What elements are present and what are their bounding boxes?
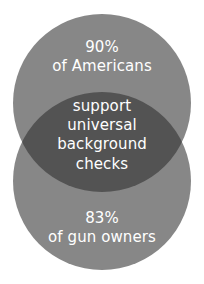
label-gun-owners-text: of gun owners — [0, 228, 204, 247]
venn-diagram: 90% of Americans support universal backg… — [0, 0, 204, 284]
label-set-gun-owners: 83% of gun owners — [0, 209, 204, 247]
label-intersection-line-2: universal — [0, 116, 204, 135]
label-intersection-line-4: checks — [0, 155, 204, 174]
label-intersection-line-1: support — [0, 97, 204, 116]
label-americans-percent: 90% — [0, 38, 204, 57]
label-intersection: support universal background checks — [0, 97, 204, 174]
label-gun-owners-percent: 83% — [0, 209, 204, 228]
label-americans-text: of Americans — [0, 57, 204, 76]
label-set-americans: 90% of Americans — [0, 38, 204, 76]
label-intersection-line-3: background — [0, 135, 204, 154]
